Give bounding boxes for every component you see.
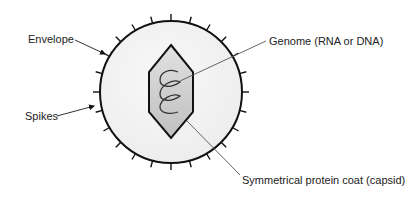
- spike: [189, 161, 191, 168]
- spikes-label: Spikes: [25, 110, 58, 122]
- spike: [132, 25, 136, 31]
- spike: [116, 37, 121, 42]
- spike: [207, 25, 211, 31]
- capsid-label: Symmetrical protein coat (capsid): [242, 174, 405, 186]
- spike: [207, 154, 211, 160]
- spike: [151, 17, 153, 24]
- spike: [240, 72, 247, 74]
- spike: [96, 110, 103, 112]
- spike: [116, 142, 121, 147]
- spike: [221, 142, 226, 147]
- spike: [240, 110, 247, 112]
- spike: [221, 37, 226, 42]
- virus-diagram: Envelope Spikes Genome (RNA or DNA) Symm…: [0, 0, 410, 197]
- spike: [151, 161, 153, 168]
- spikes-arrow: [57, 106, 94, 116]
- spike: [132, 154, 136, 160]
- envelope-arrow: [75, 40, 105, 54]
- spike: [104, 128, 110, 132]
- spike: [96, 72, 103, 74]
- virus-diagram-graphic: [0, 0, 410, 197]
- genome-label: Genome (RNA or DNA): [269, 35, 383, 47]
- envelope-label: Envelope: [28, 33, 74, 45]
- spike: [189, 17, 191, 24]
- spike: [233, 128, 239, 132]
